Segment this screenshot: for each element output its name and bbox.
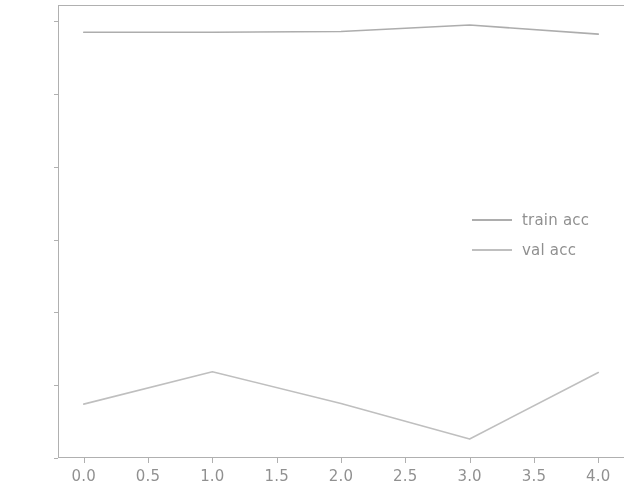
- line-series-train-acc: [84, 25, 599, 34]
- legend-label-val-acc: val acc: [522, 241, 576, 259]
- chart-legend: train acc val acc: [472, 205, 622, 265]
- x-tick-label: 1.0: [189, 467, 235, 485]
- x-tick-mark: [148, 458, 149, 463]
- x-tick-mark: [84, 458, 85, 463]
- legend-label-train-acc: train acc: [522, 211, 589, 229]
- x-tick-mark: [341, 458, 342, 463]
- x-tick-label: 0.5: [125, 467, 171, 485]
- x-tick-label: 0.0: [61, 467, 107, 485]
- x-tick-label: 4.0: [575, 467, 621, 485]
- legend-swatch-val-acc: [472, 249, 512, 251]
- x-tick-label: 3.5: [511, 467, 557, 485]
- x-tick-mark: [598, 458, 599, 463]
- y-tick-mark: [54, 458, 58, 459]
- x-tick-mark: [277, 458, 278, 463]
- line-series-val-acc: [84, 372, 599, 439]
- x-tick-label: 1.5: [254, 467, 300, 485]
- x-tick-mark: [534, 458, 535, 463]
- matplotlib-figure: 0.840.860.880.900.920.940.96 0.00.51.01.…: [0, 0, 624, 502]
- legend-swatch-train-acc: [472, 219, 512, 221]
- legend-entry-train-acc: train acc: [472, 205, 622, 235]
- chart-screenshot: 0.840.860.880.900.920.940.96 0.00.51.01.…: [0, 0, 624, 502]
- x-tick-label: 2.0: [318, 467, 364, 485]
- x-tick-mark: [212, 458, 213, 463]
- x-tick-label: 3.0: [447, 467, 493, 485]
- x-tick-mark: [470, 458, 471, 463]
- x-tick-label: 2.5: [382, 467, 428, 485]
- legend-entry-val-acc: val acc: [472, 235, 622, 265]
- x-tick-mark: [405, 458, 406, 463]
